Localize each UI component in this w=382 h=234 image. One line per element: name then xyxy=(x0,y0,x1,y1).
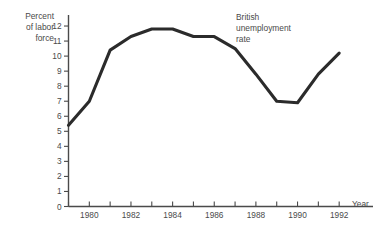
x-tick-label-1988: 1988 xyxy=(247,210,266,220)
x-axis-title: Year xyxy=(352,199,369,209)
y-axis-title-line-3: force xyxy=(6,33,54,44)
y-tick-label-5: 5 xyxy=(57,126,62,136)
chart-container: Percent of labor force British unemploym… xyxy=(0,0,382,234)
y-tick-label-1: 1 xyxy=(57,186,62,196)
y-axis-title: Percent of labor force xyxy=(6,11,54,45)
x-tick-label-1982: 1982 xyxy=(122,210,141,220)
y-tick-label-0: 0 xyxy=(57,202,62,212)
x-tick-label-1986: 1986 xyxy=(205,210,224,220)
y-tick-label-2: 2 xyxy=(57,171,62,181)
x-tick-label-1990: 1990 xyxy=(288,210,307,220)
series-annotation-line-1: British xyxy=(236,12,326,23)
y-tick-label-11: 11 xyxy=(53,36,62,46)
x-axis-tick-labels: 1980198219841986198819901992 xyxy=(80,210,349,220)
x-tick-label-1992: 1992 xyxy=(330,210,349,220)
x-axis-ticks xyxy=(69,202,340,207)
series-annotation-line-2: unemployment xyxy=(236,23,326,34)
x-tick-label-1980: 1980 xyxy=(80,210,99,220)
y-tick-label-6: 6 xyxy=(57,111,62,121)
y-tick-label-4: 4 xyxy=(57,141,62,151)
y-tick-label-7: 7 xyxy=(57,96,62,106)
y-tick-label-3: 3 xyxy=(57,156,62,166)
x-tick-label-1984: 1984 xyxy=(163,210,182,220)
y-tick-label-8: 8 xyxy=(57,81,62,91)
y-tick-label-10: 10 xyxy=(52,51,62,61)
y-tick-label-9: 9 xyxy=(57,66,62,76)
series-annotation: British unemployment rate xyxy=(236,12,326,46)
series-annotation-line-3: rate xyxy=(236,34,326,45)
y-axis-title-line-2: of labor xyxy=(6,22,54,33)
y-axis-tick-labels: 0123456789101112 xyxy=(52,21,62,211)
y-axis-title-line-1: Percent xyxy=(6,11,54,22)
